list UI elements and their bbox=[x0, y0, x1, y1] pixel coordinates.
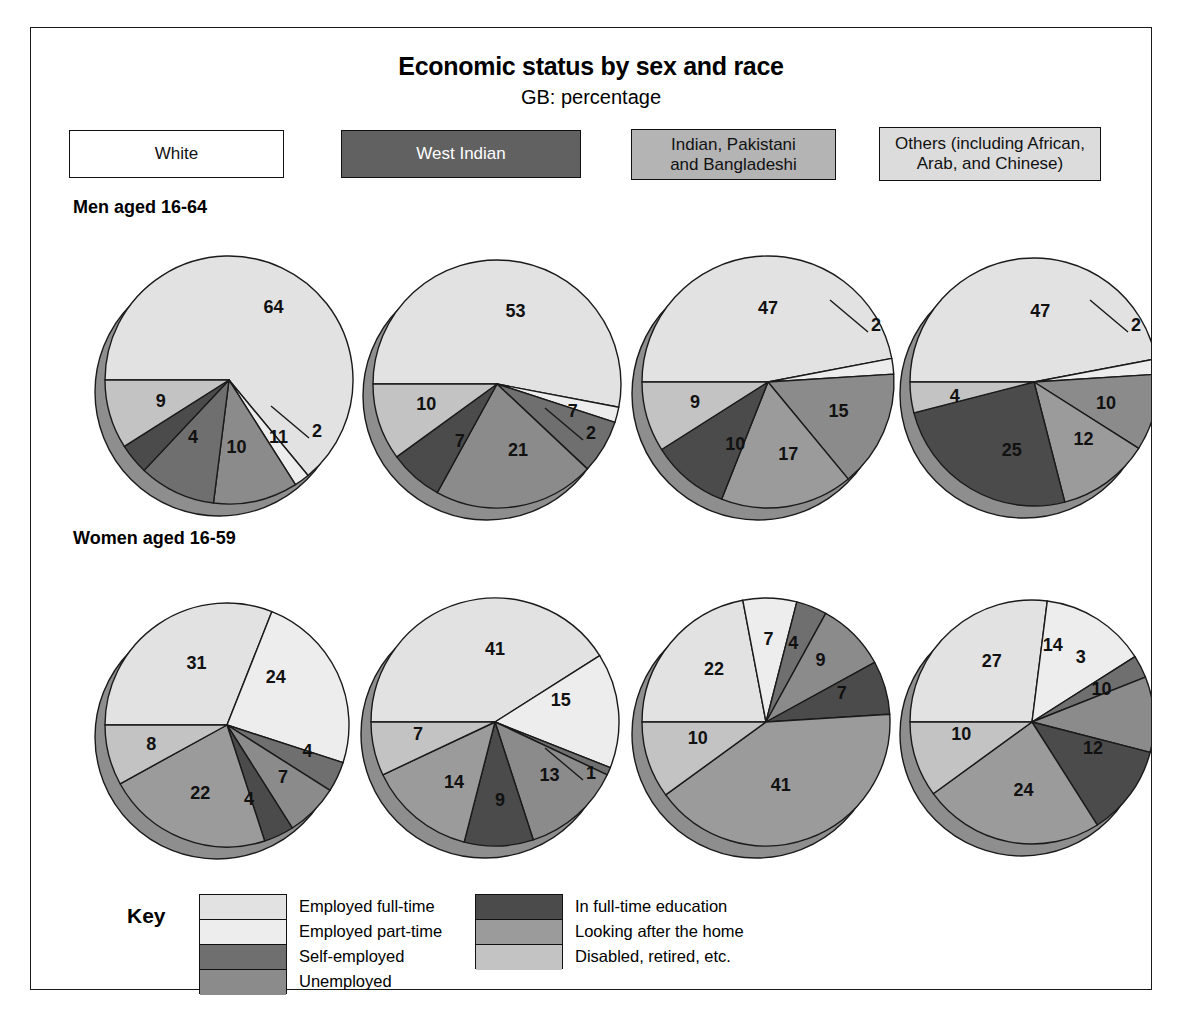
slice-value-label: 2 bbox=[871, 315, 881, 335]
key-swatch-stack bbox=[475, 894, 563, 969]
slice-value-label: 10 bbox=[416, 394, 436, 414]
slice-value-label: 4 bbox=[788, 633, 798, 653]
slice-value-label: 14 bbox=[444, 772, 464, 792]
slice-value-label: 24 bbox=[1013, 780, 1033, 800]
pie-6: 41151139147 bbox=[361, 598, 619, 858]
slice-value-label: 14 bbox=[1043, 635, 1063, 655]
slice-value-label: 15 bbox=[551, 690, 571, 710]
key-swatch bbox=[476, 945, 562, 970]
pie-slice bbox=[910, 600, 1047, 722]
chart-key: Key Employed full-timeEmployed part-time… bbox=[127, 880, 847, 1000]
pie-5: 3124474228 bbox=[95, 603, 349, 859]
chart-frame: Economic status by sex and race GB: perc… bbox=[30, 27, 1152, 990]
slice-value-label: 17 bbox=[778, 444, 798, 464]
key-title: Key bbox=[127, 904, 166, 928]
slice-value-label: 24 bbox=[266, 667, 286, 687]
key-label: Looking after the home bbox=[575, 919, 744, 944]
slice-value-label: 41 bbox=[485, 639, 505, 659]
key-swatch bbox=[200, 920, 286, 945]
slice-value-label: 8 bbox=[146, 734, 156, 754]
pie-8: 2714310122410 bbox=[900, 600, 1151, 856]
slice-value-label: 12 bbox=[1083, 738, 1103, 758]
slice-value-label: 7 bbox=[568, 401, 578, 421]
pie-4: 4721012254 bbox=[900, 258, 1151, 518]
key-label: Self-employed bbox=[299, 944, 404, 969]
pie-7: 2274974110 bbox=[632, 598, 890, 858]
slice-value-label: 15 bbox=[829, 401, 849, 421]
slice-value-label: 4 bbox=[244, 789, 254, 809]
key-swatch bbox=[200, 895, 286, 920]
slice-value-label: 53 bbox=[506, 301, 526, 321]
slice-value-label: 47 bbox=[1030, 301, 1050, 321]
slice-value-label: 4 bbox=[188, 427, 198, 447]
slice-value-label: 4 bbox=[950, 386, 960, 406]
slice-value-label: 22 bbox=[190, 783, 210, 803]
pie-2: 532721710 bbox=[363, 260, 621, 520]
pie-1: 642111049 bbox=[95, 256, 353, 516]
key-label: Unemployed bbox=[299, 969, 392, 994]
slice-value-label: 10 bbox=[1092, 679, 1112, 699]
slice-value-label: 41 bbox=[771, 775, 791, 795]
slice-value-label: 9 bbox=[156, 391, 166, 411]
slice-value-label: 2 bbox=[1131, 315, 1141, 335]
slice-value-label: 9 bbox=[495, 790, 505, 810]
slice-value-label: 10 bbox=[688, 728, 708, 748]
slice-value-label: 22 bbox=[704, 659, 724, 679]
pie-3: 4721517109 bbox=[632, 256, 894, 520]
pies-svg: 6421110495327217104721517109472101225431… bbox=[31, 28, 1151, 989]
slice-value-label: 2 bbox=[312, 421, 322, 441]
slice-value-label: 1 bbox=[586, 763, 596, 783]
key-label: Employed full-time bbox=[299, 894, 435, 919]
slice-value-label: 10 bbox=[1096, 393, 1116, 413]
slice-value-label: 10 bbox=[951, 724, 971, 744]
slice-value-label: 64 bbox=[264, 297, 284, 317]
slice-value-label: 10 bbox=[725, 434, 745, 454]
key-swatch bbox=[476, 895, 562, 920]
slice-value-label: 7 bbox=[278, 767, 288, 787]
slice-value-label: 47 bbox=[758, 298, 778, 318]
key-swatch bbox=[200, 970, 286, 995]
slice-value-label: 31 bbox=[186, 653, 206, 673]
pie-slice bbox=[642, 256, 892, 382]
key-swatch-stack bbox=[199, 894, 287, 994]
slice-value-label: 9 bbox=[816, 650, 826, 670]
key-swatch bbox=[200, 945, 286, 970]
slice-value-label: 2 bbox=[586, 423, 596, 443]
slice-value-label: 7 bbox=[837, 683, 847, 703]
slice-value-label: 13 bbox=[540, 765, 560, 785]
key-label: In full-time education bbox=[575, 894, 727, 919]
slice-value-label: 7 bbox=[413, 724, 423, 744]
slice-value-label: 21 bbox=[508, 440, 528, 460]
slice-value-label: 3 bbox=[1076, 647, 1086, 667]
slice-value-label: 12 bbox=[1074, 429, 1094, 449]
slice-value-label: 7 bbox=[455, 431, 465, 451]
key-swatch bbox=[476, 920, 562, 945]
key-label: Disabled, retired, etc. bbox=[575, 944, 731, 969]
slice-value-label: 7 bbox=[763, 629, 773, 649]
slice-value-label: 27 bbox=[982, 651, 1002, 671]
slice-value-label: 25 bbox=[1002, 440, 1022, 460]
slice-value-label: 4 bbox=[303, 741, 313, 761]
slice-value-label: 11 bbox=[269, 427, 288, 447]
key-label: Employed part-time bbox=[299, 919, 442, 944]
slice-value-label: 9 bbox=[690, 392, 700, 412]
slice-value-label: 10 bbox=[226, 437, 246, 457]
